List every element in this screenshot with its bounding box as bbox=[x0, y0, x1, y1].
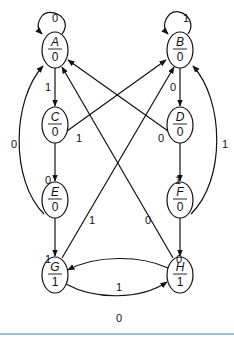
state-E-name: E bbox=[51, 185, 60, 199]
label-D-F: 1 bbox=[175, 174, 181, 186]
state-D-name: D bbox=[176, 110, 185, 124]
label-C-E: 0 bbox=[45, 174, 51, 186]
label-C-B: 1 bbox=[76, 132, 82, 144]
state-B-name: B bbox=[176, 35, 184, 49]
state-C: C 0 bbox=[42, 107, 68, 143]
state-A: A 0 bbox=[42, 32, 68, 68]
state-F-name: F bbox=[176, 185, 184, 199]
state-A-name: A bbox=[50, 35, 59, 49]
state-G-output: 1 bbox=[52, 275, 59, 289]
label-E-G: 1 bbox=[45, 253, 51, 265]
label-H-G: 1 bbox=[116, 281, 122, 293]
state-F: F 0 bbox=[167, 182, 193, 218]
label-F-H: 0 bbox=[176, 253, 182, 265]
state-C-output: 0 bbox=[52, 125, 59, 139]
label-A-C: 1 bbox=[45, 81, 51, 93]
state-B-output: 0 bbox=[177, 50, 184, 64]
state-A-output: 0 bbox=[52, 50, 59, 64]
label-E-A: 0 bbox=[11, 138, 17, 150]
label-D-A: 0 bbox=[158, 132, 164, 144]
state-H-output: 1 bbox=[177, 275, 184, 289]
edge-E-A bbox=[19, 66, 44, 214]
label-B-D: 0 bbox=[170, 81, 176, 93]
state-D-output: 0 bbox=[177, 125, 184, 139]
label-H-A: 0 bbox=[145, 214, 151, 226]
state-diagram: A 0 B 0 C 0 D 0 E 0 F 0 G 1 H bbox=[0, 0, 234, 338]
edge-H-G bbox=[68, 258, 168, 270]
state-D: D 0 bbox=[167, 107, 193, 143]
label-A-A: 0 bbox=[52, 12, 58, 24]
state-E: E 0 bbox=[42, 182, 68, 218]
edge-F-B bbox=[191, 66, 217, 214]
state-G-name: G bbox=[50, 260, 59, 274]
bottom-divider bbox=[0, 333, 234, 335]
state-E-output: 0 bbox=[52, 200, 59, 214]
edge-C-B bbox=[67, 60, 166, 131]
label-B-B: 1 bbox=[183, 12, 189, 24]
edge-D-A bbox=[68, 60, 168, 131]
label-F-B: 1 bbox=[222, 138, 228, 150]
label-G-B: 1 bbox=[89, 214, 95, 226]
state-C-name: C bbox=[51, 110, 60, 124]
state-F-output: 0 bbox=[177, 200, 184, 214]
state-B: B 0 bbox=[167, 32, 193, 68]
label-G-H: 0 bbox=[116, 312, 122, 324]
